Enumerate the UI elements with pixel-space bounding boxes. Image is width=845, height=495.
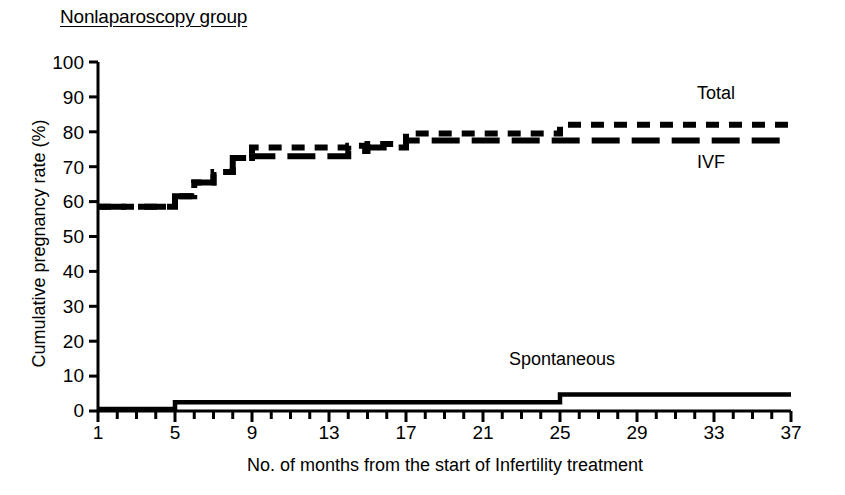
chart-figure: Nonlaparoscopy group Cumulative pregnanc…	[0, 0, 845, 495]
series-line-spontaneous	[98, 395, 791, 409]
x-tick-marks	[98, 411, 791, 422]
plot-area	[0, 0, 845, 495]
axes	[89, 62, 791, 422]
series-line-ivf	[98, 141, 791, 207]
series-line-total	[98, 125, 791, 207]
data-series	[98, 125, 791, 409]
